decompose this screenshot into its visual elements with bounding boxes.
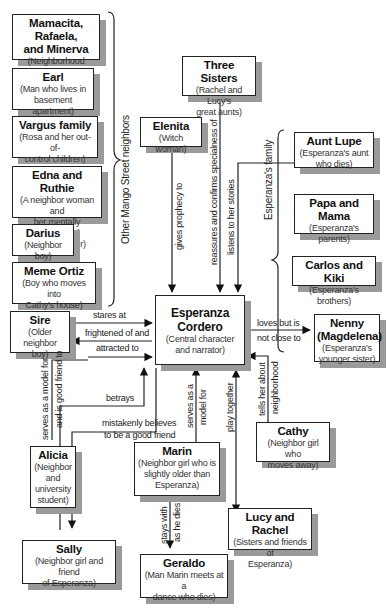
node-description: basement apartment): [15, 95, 91, 117]
node-description: (Sisters and friends of: [231, 537, 309, 559]
family-group-label: Esperanza's family: [264, 140, 274, 220]
node-description: (Boy who moves into: [15, 278, 93, 300]
node-sire[interactable]: Sire (Older neighbor boy): [10, 311, 70, 353]
node-description: control children): [15, 154, 95, 165]
node-papa-and-mama[interactable]: Papa and Mama (Esperanza's parents): [294, 194, 374, 234]
node-description: of Esperanza): [25, 578, 113, 589]
node-description: (Central character: [158, 334, 242, 345]
node-name: Esperanza: [158, 306, 242, 320]
node-sally[interactable]: Sally (Neighbor girl and friend of Esper…: [22, 540, 116, 584]
node-description: (Rachel and Lucy's: [185, 85, 253, 107]
node-name: Cordero: [158, 320, 242, 334]
node-description: who dies): [297, 159, 371, 170]
edge-label-listens: listens to her stories: [226, 179, 236, 255]
edge-label-gives-prophecy: gives prophecy to: [174, 183, 184, 250]
node-elenita[interactable]: Elenita (Witch woman): [140, 117, 202, 147]
node-name: Aunt Lupe: [297, 135, 371, 148]
edge-label-frightened: frightened of and: [85, 328, 149, 339]
node-description: younger sister): [317, 354, 377, 365]
edge-label-mistakenly-believes: mistakenly believes: [102, 418, 176, 429]
node-lucy-and-rachel[interactable]: Lucy and Rachel (Sisters and friends of …: [228, 508, 312, 550]
edge-label-not-close: not close to: [257, 333, 301, 344]
node-description: university: [33, 484, 73, 495]
node-three-sisters[interactable]: Three Sisters (Rachel and Lucy's great a…: [182, 56, 256, 96]
node-cathy[interactable]: Cathy (Neighbor girl who moves away): [256, 422, 330, 462]
node-description: (Esperanza's: [297, 223, 371, 234]
node-description: Esperanza): [137, 480, 217, 491]
node-description: (Neighbor girl and friend: [25, 556, 113, 578]
edge-label-play-together: play together: [225, 383, 235, 432]
node-name: Darius: [15, 227, 71, 240]
node-description: student): [33, 495, 73, 506]
node-edna-and-ruthie[interactable]: Edna and Ruthie (A neighbor woman and he…: [12, 166, 102, 218]
character-map: Other Mango Street neighbors Esperanza's…: [0, 0, 388, 612]
edge-label-loves-but: loves but is: [257, 318, 300, 329]
node-name: Vargus family: [15, 119, 95, 132]
node-carlos-and-kiki[interactable]: Carlos and Kiki (Esperanza's brothers): [292, 256, 376, 286]
node-description: (Witch woman): [143, 133, 199, 155]
edge-label-good-friend-to: and is good friend to: [54, 351, 64, 428]
node-vargus-family[interactable]: Vargus family (Rosa and her out-of- cont…: [12, 116, 98, 158]
node-marin[interactable]: Marin (Neighbor girl who is slightly old…: [134, 442, 220, 496]
node-description: (Older neighbor: [13, 327, 67, 349]
node-name: Cathy: [259, 425, 327, 438]
node-description: (Man Marin meets at a: [143, 570, 225, 592]
node-description: Cathy's house): [15, 300, 93, 311]
node-name: Mamacita, Rafaela,: [15, 17, 97, 43]
node-description: and narrator): [158, 345, 242, 356]
node-description: and: [33, 473, 73, 484]
node-description: (A neighbor woman and: [15, 195, 99, 217]
node-mamacita-rafaela-minerva[interactable]: Mamacita, Rafaela, and Minerva (Neighbor…: [12, 14, 100, 60]
edge-label-reassures: reassures and confirms specialness of: [209, 119, 219, 265]
node-description: (Neighbor: [33, 462, 73, 473]
edge-label-model-for: model for: [198, 389, 208, 425]
edge-label-serves-model: serves as a model for: [40, 358, 50, 440]
node-name: Sally: [25, 543, 113, 556]
node-name: Carlos and Kiki: [295, 259, 373, 285]
edge-label-betrays: betrays: [106, 393, 134, 404]
node-name: Three Sisters: [185, 59, 253, 85]
edge-label-attracted: attracted to: [96, 343, 139, 354]
node-description: dance who dies): [143, 592, 225, 603]
node-name: Sire: [13, 314, 67, 327]
edge-label-as-he-dies: as he dies: [172, 503, 182, 542]
node-description: (Esperanza's: [317, 343, 377, 354]
node-description: parents): [297, 234, 371, 245]
node-esperanza-cordero[interactable]: Esperanza Cordero (Central character and…: [155, 295, 245, 365]
edge-label-stays-with: stays with: [159, 506, 169, 544]
node-description: (Neighbor boy): [15, 240, 71, 262]
node-geraldo[interactable]: Geraldo (Man Marin meets at a dance who …: [140, 554, 228, 598]
node-name: Elenita: [143, 120, 199, 133]
node-name: Edna and Ruthie: [15, 169, 99, 195]
node-description: (Rosa and her out-of-: [15, 132, 95, 154]
node-aunt-lupe[interactable]: Aunt Lupe (Esperanza's aunt who dies): [294, 132, 374, 168]
node-name: Lucy and Rachel: [231, 511, 309, 537]
node-name: (Magdelena): [317, 330, 377, 343]
node-description: slightly older than: [137, 469, 217, 480]
node-name: Marin: [137, 445, 217, 458]
edge-label-good-friend: to be a good friend: [104, 430, 175, 441]
node-darius[interactable]: Darius (Neighbor boy): [12, 224, 74, 256]
edge-label-stares-at: stares at: [93, 310, 126, 321]
node-name: and Minerva: [15, 43, 97, 56]
node-name: Meme Ortiz: [15, 265, 93, 278]
node-name: Nenny: [317, 317, 377, 330]
node-description: (Esperanza's aunt: [297, 148, 371, 159]
node-description: moves away): [259, 460, 327, 471]
node-description: Esperanza): [231, 559, 309, 570]
node-alicia[interactable]: Alicia (Neighbor and university student): [30, 446, 76, 508]
node-description: (Esperanza's brothers): [295, 285, 373, 307]
node-name: Alicia: [33, 449, 73, 462]
node-name: Earl: [15, 71, 91, 84]
node-earl[interactable]: Earl (Man who lives in basement apartmen…: [12, 68, 94, 110]
neighbors-group-label: Other Mango Street neighbors: [121, 115, 131, 244]
edge-label-neighborhood: neighborhood: [270, 361, 280, 414]
edge-label-tells-her: tells her about: [257, 362, 267, 416]
node-nenny[interactable]: Nenny (Magdelena) (Esperanza's younger s…: [314, 314, 380, 362]
node-meme-ortiz[interactable]: Meme Ortiz (Boy who moves into Cathy's h…: [12, 262, 96, 304]
node-description: (Man who lives in: [15, 84, 91, 95]
edge-label-serves-as-a: serves as a: [185, 384, 195, 428]
node-description: (Neighbor girl who: [259, 438, 327, 460]
node-description: (Neighbor girl who is: [137, 458, 217, 469]
node-name: Papa and Mama: [297, 197, 371, 223]
